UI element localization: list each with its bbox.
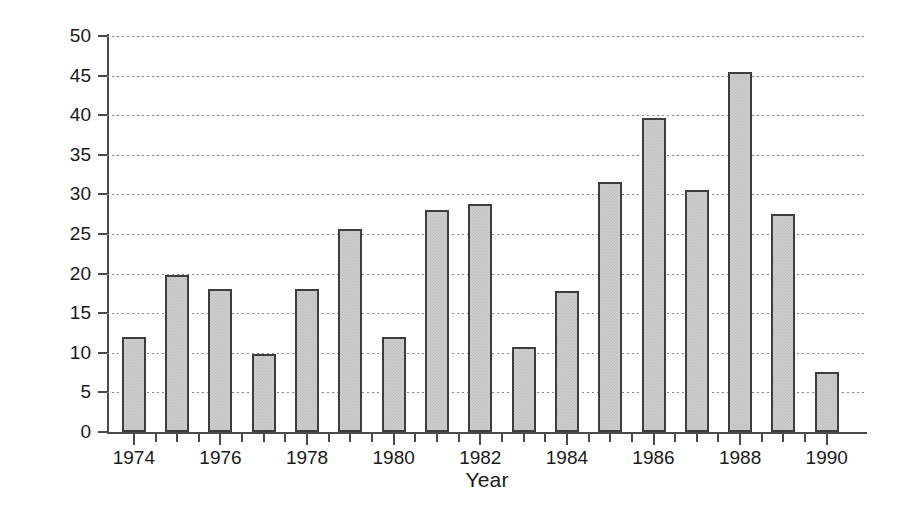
x-axis-tick-label: 1982 xyxy=(445,448,515,468)
x-axis-tick-minor xyxy=(588,434,590,442)
y-axis-tick-label: 30 xyxy=(47,184,91,203)
bar xyxy=(122,337,146,432)
x-axis-tick-minor xyxy=(436,434,438,442)
x-axis-tick-label: 1974 xyxy=(99,448,169,468)
x-axis-tick-major xyxy=(306,434,308,445)
x-axis-tick-label: 1978 xyxy=(272,448,342,468)
x-axis-tick-major xyxy=(566,434,568,445)
y-axis-tick-label: 0 xyxy=(47,422,91,441)
x-axis-tick-minor xyxy=(328,434,330,442)
x-axis-tick-minor xyxy=(761,434,763,442)
x-axis-tick-minor xyxy=(458,434,460,442)
y-axis-tick-label: 40 xyxy=(47,105,91,124)
y-axis-tick xyxy=(98,154,107,156)
gridline xyxy=(107,36,867,37)
y-axis-tick-label: 25 xyxy=(47,224,91,243)
bar xyxy=(338,229,362,432)
y-axis-tick xyxy=(98,233,107,235)
x-axis-tick-minor xyxy=(674,434,676,442)
gridline xyxy=(107,115,867,116)
x-axis-tick-minor xyxy=(198,434,200,442)
x-axis-tick-label: 1976 xyxy=(185,448,255,468)
x-axis-tick-label: 1980 xyxy=(359,448,429,468)
plot-area xyxy=(107,36,867,432)
bar xyxy=(642,118,666,432)
x-axis-tick-major xyxy=(826,434,828,445)
x-axis-tick-label: 1990 xyxy=(792,448,862,468)
x-axis-tick-minor xyxy=(609,434,611,442)
bar xyxy=(555,291,579,432)
bar xyxy=(208,289,232,432)
y-axis-tick xyxy=(98,352,107,354)
x-axis-tick-major xyxy=(739,434,741,445)
x-axis-tick-label: 1988 xyxy=(705,448,775,468)
y-axis-tick xyxy=(98,35,107,37)
x-axis-tick-minor xyxy=(284,434,286,442)
bar xyxy=(815,372,839,432)
y-axis-tick xyxy=(98,391,107,393)
x-axis-tick-label: 1984 xyxy=(532,448,602,468)
x-axis-tick-major xyxy=(219,434,221,445)
bar xyxy=(165,275,189,432)
y-axis-tick-label: 15 xyxy=(47,303,91,322)
x-axis-tick-minor xyxy=(782,434,784,442)
bar xyxy=(685,190,709,432)
bar xyxy=(425,210,449,432)
bar xyxy=(512,347,536,432)
y-axis-tick-label: 35 xyxy=(47,145,91,164)
bar xyxy=(598,182,622,432)
x-axis-tick-minor xyxy=(696,434,698,442)
y-axis-tick-label: 20 xyxy=(47,264,91,283)
y-axis-tick xyxy=(98,273,107,275)
y-axis-tick xyxy=(98,193,107,195)
x-axis-tick-major xyxy=(653,434,655,445)
x-axis-tick-minor xyxy=(544,434,546,442)
y-axis-tick xyxy=(98,431,107,433)
x-axis-tick-minor xyxy=(349,434,351,442)
x-axis-tick-minor xyxy=(263,434,265,442)
gridline xyxy=(107,155,867,156)
gridline xyxy=(107,194,867,195)
x-axis-tick-major xyxy=(393,434,395,445)
y-axis-tick-label: 10 xyxy=(47,343,91,362)
x-axis-tick-major xyxy=(479,434,481,445)
y-axis-tick xyxy=(98,312,107,314)
x-axis-title: Year xyxy=(107,468,867,492)
x-axis-tick-label: 1986 xyxy=(619,448,689,468)
bar-chart-figure: Number of Offers Year 051015202530354045… xyxy=(0,0,907,511)
gridline xyxy=(107,76,867,77)
bar xyxy=(468,204,492,432)
x-axis-tick-minor xyxy=(523,434,525,442)
x-axis-tick-minor xyxy=(241,434,243,442)
bar xyxy=(252,354,276,432)
x-axis-tick-minor xyxy=(371,434,373,442)
x-axis-tick-minor xyxy=(501,434,503,442)
bar xyxy=(382,337,406,432)
y-axis-tick xyxy=(98,114,107,116)
y-axis-tick-label: 5 xyxy=(47,382,91,401)
x-axis-tick-minor xyxy=(176,434,178,442)
x-axis-tick-minor xyxy=(717,434,719,442)
y-axis-tick-label: 50 xyxy=(47,26,91,45)
y-axis-tick-label: 45 xyxy=(47,66,91,85)
x-axis-tick-minor xyxy=(631,434,633,442)
bar xyxy=(771,214,795,432)
x-axis-tick-minor xyxy=(804,434,806,442)
bar xyxy=(728,72,752,432)
x-axis-tick-minor xyxy=(414,434,416,442)
x-axis-tick-major xyxy=(133,434,135,445)
x-axis-tick-minor xyxy=(155,434,157,442)
bar xyxy=(295,289,319,432)
y-axis-tick xyxy=(98,75,107,77)
